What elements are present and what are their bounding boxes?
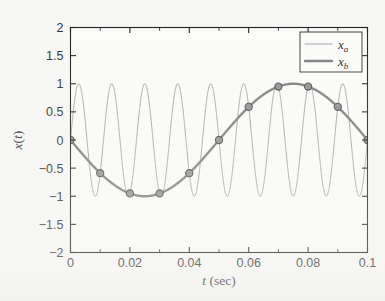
y-tick-label: 1 bbox=[57, 77, 64, 91]
x-tick-label: 0.02 bbox=[118, 256, 142, 270]
y-tick-label: −0.5 bbox=[39, 162, 64, 176]
data-point-marker bbox=[245, 103, 252, 110]
data-point-marker bbox=[97, 170, 104, 177]
x-tick-labels: 00.020.040.060.080.1 bbox=[67, 256, 376, 270]
data-point-marker bbox=[156, 190, 163, 197]
chart-figure: 00.020.040.060.080.1−2−1.5−1−0.500.511.5… bbox=[0, 0, 385, 301]
y-tick-label: 0.5 bbox=[46, 105, 63, 119]
data-point-marker bbox=[215, 136, 222, 143]
y-axis-title: x(t) bbox=[10, 131, 25, 151]
data-point-marker bbox=[126, 190, 133, 197]
plot-canvas: 00.020.040.060.080.1−2−1.5−1−0.500.511.5… bbox=[0, 0, 385, 301]
data-point-marker bbox=[275, 83, 282, 90]
data-point-marker bbox=[334, 103, 341, 110]
x-tick-label: 0.04 bbox=[177, 256, 201, 270]
x-tick-label: 0.08 bbox=[296, 256, 320, 270]
data-point-marker bbox=[305, 83, 312, 90]
y-tick-labels: −2−1.5−1−0.500.511.52 bbox=[39, 21, 64, 260]
legend: xaxb bbox=[300, 32, 362, 72]
x-axis-title: t (sec) bbox=[202, 273, 235, 288]
y-tick-label: 2 bbox=[57, 21, 64, 35]
legend-box bbox=[300, 32, 362, 72]
x-tick-label: 0 bbox=[67, 256, 74, 270]
y-tick-label: 0 bbox=[57, 134, 64, 148]
y-tick-label: 1.5 bbox=[46, 49, 63, 63]
x-tick-label: 0.1 bbox=[359, 256, 376, 270]
y-tick-label: −1.5 bbox=[39, 218, 64, 232]
data-point-marker bbox=[186, 170, 193, 177]
x-tick-label: 0.06 bbox=[237, 256, 261, 270]
y-tick-label: −2 bbox=[49, 246, 63, 260]
y-tick-label: −1 bbox=[49, 190, 63, 204]
